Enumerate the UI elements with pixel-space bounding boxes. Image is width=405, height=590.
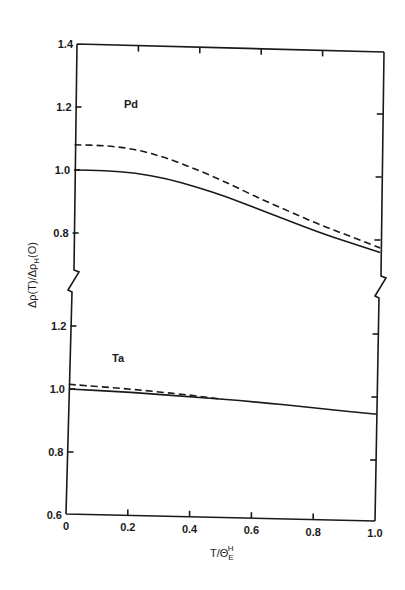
x-tick-label: 1.0	[367, 527, 382, 539]
x-tick-label: 0.6	[244, 524, 259, 536]
panel-label-pd: Pd	[124, 98, 138, 110]
x-axis-title-sup: H	[228, 544, 234, 553]
panel-label-ta: Ta	[112, 352, 125, 364]
x-axis-title-sub: E	[228, 553, 233, 562]
y-tick-label: 1.4	[58, 38, 74, 50]
x-tick-label: 0.8	[306, 526, 321, 538]
x-tick-label: 0	[63, 520, 69, 532]
y-tick-label: 1.0	[55, 164, 70, 176]
x-tick-label: 0.2	[120, 521, 135, 533]
x-tick-label: 0.4	[182, 523, 198, 535]
chart: 00.20.40.60.81.00.81.01.21.40.60.81.01.2…	[0, 0, 405, 590]
pd-dashed-curve	[75, 145, 381, 248]
y-tick-label: 0.6	[47, 509, 62, 521]
tick-labels: 00.20.40.60.81.00.81.01.21.40.60.81.01.2	[47, 38, 383, 539]
x-axis-title: T/ΘEH	[210, 544, 234, 562]
ta-solid-curve	[69, 389, 377, 414]
y-axis-title-pre: Δρ(T)/Δρ	[26, 264, 38, 308]
y-tick-label: 1.0	[50, 383, 65, 395]
y-axis-title-post: (O)	[26, 242, 38, 258]
plot-frame	[66, 44, 386, 521]
y-tick-label: 1.2	[56, 101, 71, 113]
y-tick-label: 0.8	[48, 446, 63, 458]
y-axis-title: Δρ(T)/ΔρH(O)	[26, 242, 41, 308]
curves	[69, 145, 380, 415]
ticks	[67, 46, 382, 520]
y-tick-label: 0.8	[53, 227, 68, 239]
x-axis-title-main: T/Θ	[210, 547, 229, 559]
y-tick-label: 1.2	[51, 320, 66, 332]
